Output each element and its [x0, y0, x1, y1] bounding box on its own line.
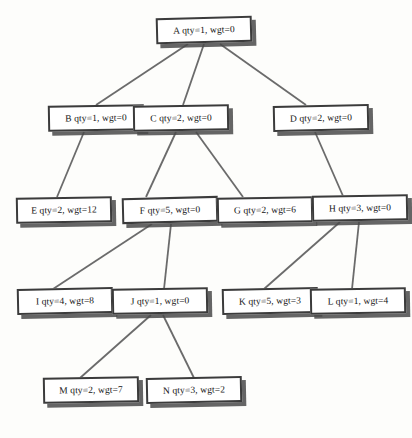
node-m[interactable]: M qty=2, wgt=7 — [43, 376, 139, 404]
edge-j-n — [163, 315, 194, 378]
node-label: A qty=1, wgt=0 — [156, 16, 253, 45]
edge-h-k — [264, 222, 340, 289]
node-l[interactable]: L qty=1, wgt=4 — [310, 287, 406, 315]
edge-f-i — [53, 224, 152, 289]
node-a[interactable]: A qty=1, wgt=0 — [156, 16, 253, 45]
node-label: B qty=1, wgt=0 — [48, 104, 144, 132]
node-g[interactable]: G qty=2, wgt=6 — [217, 196, 313, 224]
node-c[interactable]: C qty=2, wgt=0 — [133, 104, 229, 131]
edge-c-g — [196, 132, 243, 197]
node-e[interactable]: E qty=2, wgt=12 — [16, 196, 112, 224]
edge-f-j — [164, 224, 171, 289]
edge-b-e — [57, 132, 84, 197]
node-h[interactable]: H qty=3, wgt=0 — [312, 194, 408, 222]
edge-a-b — [96, 44, 188, 105]
edge-a-d — [220, 44, 306, 105]
node-label: K qty=5, wgt=3 — [222, 287, 319, 315]
node-label: J qty=1, wgt=0 — [112, 287, 208, 315]
node-label: M qty=2, wgt=7 — [43, 376, 139, 404]
node-label: D qty=2, wgt=0 — [273, 104, 370, 132]
node-i[interactable]: I qty=4, wgt=8 — [17, 287, 114, 315]
node-label: L qty=1, wgt=4 — [310, 287, 406, 315]
edge-c-f — [146, 132, 176, 197]
node-k[interactable]: K qty=5, wgt=3 — [222, 287, 319, 315]
node-label: F qty=5, wgt=0 — [122, 196, 219, 224]
node-label: N qty=3, wgt=2 — [146, 376, 243, 404]
node-label: I qty=4, wgt=8 — [17, 287, 114, 315]
edge-a-c — [183, 44, 204, 105]
node-label: E qty=2, wgt=12 — [16, 196, 112, 224]
edge-j-m — [80, 315, 151, 378]
node-f[interactable]: F qty=5, wgt=0 — [122, 196, 219, 224]
node-label: C qty=2, wgt=0 — [133, 104, 229, 131]
node-b[interactable]: B qty=1, wgt=0 — [48, 104, 144, 132]
node-j[interactable]: J qty=1, wgt=0 — [112, 287, 208, 315]
edge-d-h — [315, 132, 343, 196]
node-label: H qty=3, wgt=0 — [312, 194, 408, 222]
node-n[interactable]: N qty=3, wgt=2 — [146, 376, 243, 404]
edge-h-l — [352, 222, 359, 289]
node-d[interactable]: D qty=2, wgt=0 — [273, 104, 370, 132]
diagram-canvas: A qty=1, wgt=0B qty=1, wgt=0C qty=2, wgt… — [0, 0, 412, 438]
node-label: G qty=2, wgt=6 — [217, 196, 313, 224]
